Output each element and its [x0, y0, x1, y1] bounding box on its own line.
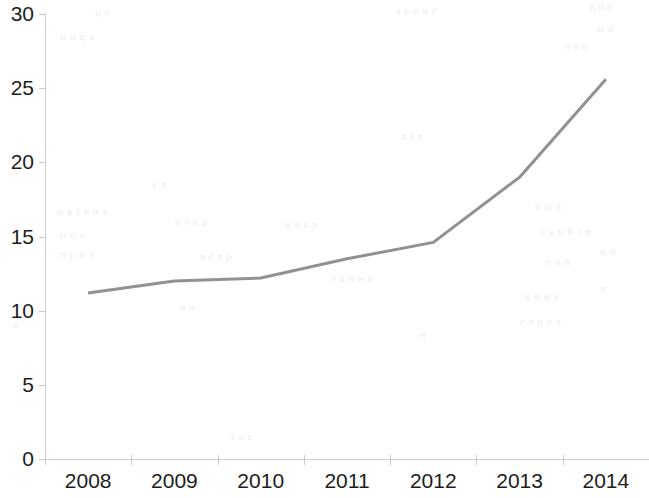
y-tick-label: 20: [2, 151, 34, 172]
x-tick-label: 2013: [475, 470, 565, 491]
y-tick-mark: [39, 14, 46, 15]
scan-ghost-text: п р и х: [60, 248, 95, 260]
y-tick-label: 5: [2, 374, 34, 395]
scan-ghost-text: о т к р: [175, 215, 208, 227]
scan-ghost-text: 8 0 0: [590, 2, 613, 13]
x-tick-label: 2010: [216, 470, 306, 491]
x-tick-mark: [45, 455, 46, 465]
scan-ghost-text: н и: [600, 245, 616, 257]
scan-ghost-text: б ы л: [535, 200, 561, 212]
x-tick-mark: [390, 455, 391, 465]
y-tick-mark: [39, 162, 46, 163]
scan-ghost-text: н и: [598, 22, 614, 34]
x-tick-label: 2008: [43, 470, 133, 491]
series-line-series-1: [88, 79, 606, 293]
scan-ghost-text: в с т р: [200, 250, 232, 262]
x-tick-mark: [563, 455, 564, 465]
scan-ghost-text: н и ц а: [60, 30, 94, 42]
x-tick-label: 2014: [561, 470, 649, 491]
x-axis-line: [45, 459, 649, 460]
scan-ghost-text: т о г: [230, 430, 253, 442]
x-tick-mark: [218, 455, 219, 465]
scan-ghost-text: м я т е и к: [56, 205, 108, 218]
y-tick-mark: [39, 385, 46, 386]
y-tick-mark: [39, 311, 46, 312]
scan-ghost-text: с т р о я: [520, 315, 561, 327]
x-tick-mark: [304, 455, 305, 465]
scan-ghost-text: п о п: [545, 255, 570, 267]
scan-ghost-text: э т о: [565, 40, 588, 52]
y-tick-label: 15: [2, 226, 34, 247]
x-tick-mark: [131, 455, 132, 465]
data-series-line: [0, 0, 649, 498]
scan-ghost-text: к о: [152, 178, 167, 190]
scan-ghost-text: к о м у: [525, 290, 560, 302]
scan-ghost-text: и т: [95, 6, 110, 18]
scan-ghost-text: с к и й с я: [540, 225, 591, 237]
y-tick-label: 10: [2, 300, 34, 321]
scan-artifact-layer: и тл е н и е8 0 0н иэ т он и ц ак ол е т…: [0, 0, 649, 498]
scan-ghost-text: л е н и е: [395, 4, 438, 17]
x-tick-label: 2012: [388, 470, 478, 491]
x-tick-mark: [476, 455, 477, 465]
y-tick-label: 25: [2, 77, 34, 98]
y-tick-mark: [39, 88, 46, 89]
scan-ghost-text: я: [600, 282, 606, 294]
x-tick-label: 2011: [302, 470, 392, 491]
line-chart: и тл е н и е8 0 0н иэ т он и ц ак ол е т…: [0, 0, 649, 498]
scan-ghost-text: н: [420, 328, 426, 340]
scan-ghost-text: п о л: [60, 228, 85, 240]
y-tick-mark: [39, 237, 46, 238]
x-tick-label: 2009: [129, 470, 219, 491]
scan-ghost-text: н а с у: [285, 218, 318, 230]
y-tick-label: 30: [2, 3, 34, 24]
scan-ghost-text: в о: [180, 300, 195, 312]
scan-ghost-text: л е т: [400, 130, 423, 142]
scan-ghost-text: л а н и я: [330, 272, 373, 284]
y-tick-label: 0: [2, 448, 34, 469]
